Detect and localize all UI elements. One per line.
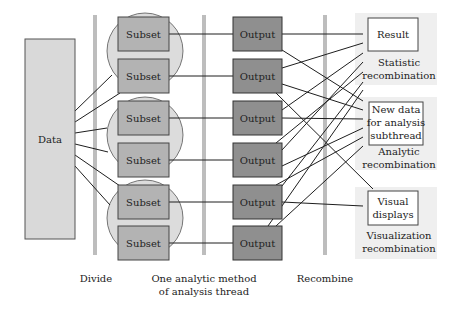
recombine-bar	[323, 15, 327, 255]
visual-displays-label-line1: Visual	[377, 196, 409, 207]
output-boxes: Output Output Output Output Output Outpu…	[233, 17, 282, 260]
visualization-caption-line2: recombination	[362, 243, 436, 254]
divide-recombine-diagram: Data Subset Subset Subset Subset Subset …	[0, 0, 457, 312]
output-label: Output	[240, 197, 276, 208]
visual-displays-label-line2: displays	[372, 209, 413, 220]
analysis-bar	[202, 15, 206, 255]
recombine-label: Recombine	[297, 273, 354, 284]
subset-label: Subset	[126, 155, 161, 166]
visualization-caption-line1: Visualization	[365, 230, 432, 241]
output-label: Output	[240, 29, 276, 40]
new-data-label-line2: for analysis	[367, 117, 425, 128]
statistic-caption-line2: recombination	[362, 70, 436, 81]
subset-label: Subset	[126, 197, 161, 208]
statistic-caption-line1: Statistic	[378, 57, 420, 68]
subset-label: Subset	[126, 238, 161, 249]
new-data-label-line3: subthread	[370, 130, 422, 141]
output-label: Output	[240, 113, 276, 124]
output-label: Output	[240, 155, 276, 166]
analysis-label-line1: One analytic method	[151, 273, 257, 284]
divide-bar	[93, 15, 97, 255]
analytic-caption-line2: recombination	[362, 159, 436, 170]
new-data-label-line1: New data	[372, 104, 421, 115]
result-label: Result	[377, 29, 409, 40]
output-label: Output	[240, 238, 276, 249]
subset-label: Subset	[126, 113, 161, 124]
analytic-caption-line1: Analytic	[377, 146, 420, 157]
data-box-label: Data	[38, 134, 62, 145]
output-label: Output	[240, 71, 276, 82]
subset-label: Subset	[126, 71, 161, 82]
analysis-label-line2: of analysis thread	[159, 286, 250, 297]
divide-label: Divide	[80, 273, 112, 284]
subset-label: Subset	[126, 29, 161, 40]
